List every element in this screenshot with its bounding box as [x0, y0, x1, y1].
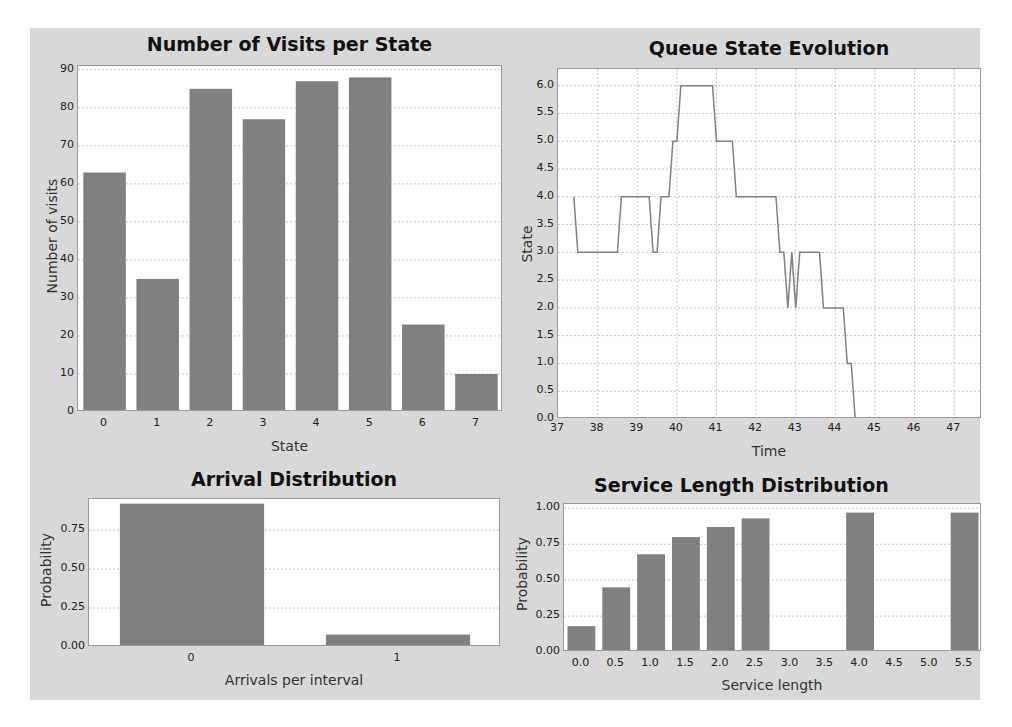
bar [326, 635, 470, 646]
tick-label: 1.5 [494, 328, 554, 341]
tick-label: 4.0 [494, 189, 554, 202]
x-axis-label: Time [557, 443, 981, 459]
tick-label: 0.25 [500, 608, 560, 621]
bar [742, 518, 770, 651]
tick-label: 0 [74, 416, 134, 429]
tick-label: 0.75 [500, 536, 560, 549]
bar [602, 587, 630, 651]
x-axis-label: State [77, 438, 502, 454]
bar [190, 89, 233, 411]
tick-label: 47 [923, 421, 983, 434]
chart-title: Number of Visits per State [77, 33, 502, 55]
bar [846, 513, 874, 651]
tick-label: 3 [233, 416, 293, 429]
y-axis-label: Number of visits [44, 166, 60, 306]
x-axis-label: Arrivals per interval [88, 672, 500, 688]
y-axis-label: Probability [38, 530, 54, 610]
bar [567, 626, 595, 651]
tick-label: 0.50 [25, 561, 85, 574]
tick-label: 0 [161, 651, 221, 664]
y-axis-label: State [519, 214, 535, 274]
tick-label: 0.00 [25, 639, 85, 652]
bar [402, 325, 445, 411]
tick-label: 4 [286, 416, 346, 429]
bar [707, 527, 735, 651]
bar [637, 554, 665, 651]
bar [136, 279, 179, 411]
bar [951, 513, 979, 651]
tick-label: 5.5 [494, 105, 554, 118]
tick-label: 20 [14, 328, 74, 341]
tick-label: 2.5 [494, 272, 554, 285]
chart-title: Arrival Distribution [88, 468, 500, 490]
bar [243, 119, 286, 411]
tick-label: 70 [14, 138, 74, 151]
bar [672, 537, 700, 651]
bar [455, 374, 498, 411]
tick-label: 2.0 [494, 300, 554, 313]
bar [296, 81, 339, 411]
x-axis-label: Service length [563, 677, 981, 693]
tick-label: 5.5 [934, 656, 994, 669]
plot-area [563, 503, 981, 651]
tick-label: 5.0 [494, 133, 554, 146]
bar [349, 77, 392, 411]
bar [83, 172, 126, 411]
tick-label: 6 [392, 416, 452, 429]
tick-label: 2 [180, 416, 240, 429]
tick-label: 0.5 [494, 383, 554, 396]
tick-label: 1 [367, 651, 427, 664]
tick-label: 0 [14, 404, 74, 417]
tick-label: 6.0 [494, 78, 554, 91]
bar [120, 504, 264, 646]
tick-label: 0.25 [25, 600, 85, 613]
tick-label: 1 [127, 416, 187, 429]
chart-title: Queue State Evolution [557, 37, 981, 59]
plot-area [557, 68, 981, 418]
tick-label: 1.00 [500, 500, 560, 513]
plot-area [88, 498, 500, 646]
y-axis-label: Probability [514, 534, 530, 614]
tick-label: 0.75 [25, 522, 85, 535]
tick-label: 5 [339, 416, 399, 429]
chart-title: Service Length Distribution [563, 474, 920, 496]
tick-label: 10 [14, 366, 74, 379]
tick-label: 1.0 [494, 355, 554, 368]
tick-label: 80 [14, 100, 74, 113]
tick-label: 4.5 [494, 161, 554, 174]
plot-area [77, 65, 502, 411]
tick-label: 0.50 [500, 572, 560, 585]
tick-label: 90 [14, 62, 74, 75]
